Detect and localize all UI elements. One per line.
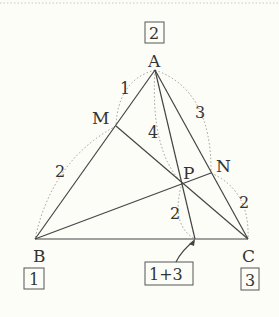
triangle-diagram: A B C M N P 1 2 3 2 4 2 2 1 3 1+3 [0, 0, 279, 317]
label-A: A [147, 51, 161, 71]
length-arcs [35, 70, 248, 239]
label-P: P [183, 163, 194, 183]
mass-B: 1 [29, 270, 39, 289]
label-B: B [33, 246, 46, 266]
ratio-PD: 2 [170, 204, 180, 223]
label-N: N [216, 156, 231, 176]
side-AC [155, 70, 248, 239]
label-M: M [92, 108, 109, 128]
ratio-AM: 1 [120, 79, 130, 98]
ratio-NC: 2 [239, 193, 249, 212]
mass-C: 3 [245, 271, 255, 290]
mass-D: 1+3 [149, 265, 183, 284]
ratio-AP: 4 [148, 123, 158, 142]
mass-A: 2 [149, 24, 159, 43]
ratio-MB: 2 [55, 162, 65, 181]
ratio-AN: 3 [195, 103, 205, 122]
side-AB [35, 70, 155, 239]
label-C: C [242, 246, 255, 266]
triangle-lines [35, 70, 248, 239]
